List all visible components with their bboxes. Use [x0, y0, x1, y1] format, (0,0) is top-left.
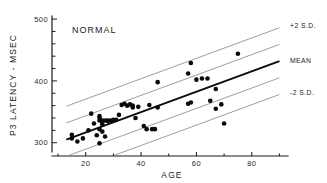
- data-point: [208, 98, 213, 103]
- data-point: [75, 139, 80, 144]
- data-point: [153, 127, 158, 132]
- y-axis-ticks: [52, 19, 57, 143]
- data-point: [213, 106, 218, 111]
- data-point: [86, 128, 91, 133]
- data-point: [114, 118, 119, 123]
- sd-line: [66, 44, 279, 123]
- figure-root: 500400300 20406080 P3 LATENCY - MSEC AGE…: [0, 0, 327, 183]
- data-point: [89, 111, 94, 116]
- x-tick-label: 40: [136, 159, 145, 168]
- scatter-plot: 500400300 20406080 P3 LATENCY - MSEC AGE…: [0, 0, 327, 183]
- x-tick-label: 80: [247, 159, 256, 168]
- band-label-mean: MEAN: [290, 57, 311, 64]
- data-point: [117, 113, 122, 118]
- data-point: [81, 136, 86, 141]
- y-axis-tick-labels: 500400300: [34, 15, 48, 148]
- data-point: [100, 122, 105, 127]
- y-tick-label: 300: [34, 138, 48, 147]
- data-point: [205, 76, 210, 81]
- data-point: [189, 61, 194, 66]
- data-point: [100, 129, 105, 134]
- x-axis-title: AGE: [161, 170, 182, 180]
- data-point: [97, 141, 102, 146]
- x-tick-label: 20: [81, 159, 90, 168]
- data-point: [155, 80, 160, 85]
- data-point: [200, 76, 205, 81]
- data-point: [147, 103, 152, 108]
- data-point: [103, 134, 108, 139]
- sd-line: [66, 28, 279, 107]
- data-point: [194, 77, 199, 82]
- data-point: [186, 71, 191, 76]
- data-point: [155, 105, 160, 110]
- band-label-minus-2-sd: -2 S.D.: [290, 89, 314, 96]
- data-point: [213, 87, 218, 92]
- data-point: [222, 121, 227, 126]
- data-point: [144, 127, 149, 132]
- y-tick-label: 400: [34, 77, 48, 86]
- y-tick-label: 500: [34, 15, 48, 24]
- y-axis-title: P3 LATENCY - MSEC: [8, 34, 18, 136]
- band-label-plus-2-sd: +2 S.D.: [290, 22, 316, 29]
- x-axis-tick-labels: 20406080: [81, 159, 256, 168]
- data-point: [236, 51, 241, 56]
- data-point: [133, 116, 138, 121]
- panel-label-normal: NORMAL: [72, 25, 117, 35]
- data-point: [130, 105, 135, 110]
- data-points: [70, 51, 241, 145]
- data-point: [92, 121, 97, 126]
- x-tick-label: 60: [192, 159, 201, 168]
- axes: 500400300 20406080: [34, 15, 288, 168]
- data-point: [94, 133, 99, 138]
- data-point: [70, 136, 75, 141]
- data-point: [219, 102, 224, 107]
- data-point: [189, 100, 194, 105]
- data-point: [136, 105, 141, 110]
